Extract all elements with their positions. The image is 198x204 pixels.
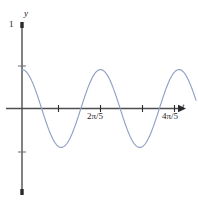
y-axis-tick-label-one: 1 — [9, 20, 14, 29]
trigonometric-graph-figure: 1 y t 2π/5 4π/5 — [0, 0, 198, 204]
x-axis-tick-label-2pi5: 2π/5 — [87, 112, 103, 121]
y-axis-label: y — [24, 9, 28, 18]
x-axis-tick-label-4pi5: 4π/5 — [162, 112, 178, 121]
x-axis-label: t — [182, 102, 185, 111]
plot-canvas — [0, 0, 198, 204]
